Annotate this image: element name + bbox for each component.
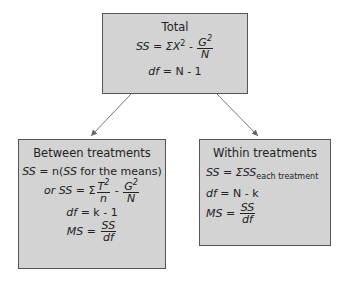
within-title: Within treatments — [200, 146, 330, 160]
t-squared-over-n: T2n — [97, 179, 111, 204]
between-title: Between treatments — [19, 146, 165, 160]
total-box: Total SS = ΣX2 - G2N df = N - 1 — [102, 13, 248, 94]
between-ss-formula-2: or SS = ΣT2n - G2N — [19, 179, 165, 204]
within-ms-formula: MS = SSdf — [200, 202, 330, 225]
total-df-formula: df = N - 1 — [103, 65, 247, 78]
within-ss-formula: SS = ΣSSeach treatment — [200, 166, 330, 181]
g-squared-over-n: G2N — [197, 35, 213, 60]
arrow-to-between — [91, 93, 132, 136]
total-title: Total — [103, 20, 247, 34]
g-squared-over-n: G2N — [123, 179, 139, 204]
between-df-formula: df = k - 1 — [19, 206, 165, 219]
within-box: Within treatments SS = ΣSSeach treatment… — [199, 139, 331, 246]
arrow-to-within — [216, 93, 258, 136]
within-df-formula: df = N - k — [200, 187, 330, 200]
between-ms-formula: MS = SSdf — [19, 220, 165, 243]
between-box: Between treatments SS = n(SS for the mea… — [18, 139, 166, 269]
ss-over-df: SSdf — [101, 220, 117, 243]
total-ss-formula: SS = ΣX2 - G2N — [103, 35, 247, 60]
ss-over-df: SSdf — [240, 202, 256, 225]
between-ss-formula-1: SS = n(SS for the means) — [19, 165, 165, 178]
